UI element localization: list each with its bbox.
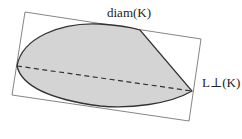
convex-body-diagram — [0, 0, 242, 139]
width-label: L⊥(K) — [202, 76, 240, 89]
convex-body-k — [17, 24, 192, 107]
diam-label: diam(K) — [107, 6, 151, 19]
